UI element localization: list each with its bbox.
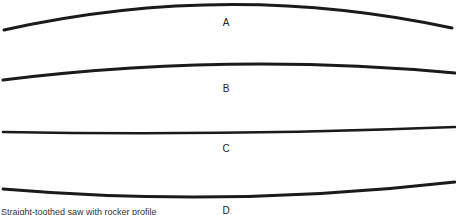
- profile-a-label: A: [223, 18, 230, 28]
- profile-d-label: D: [222, 206, 229, 215]
- profile-b-label: B: [223, 84, 230, 94]
- figure-caption: Straight-toothed saw with rocker profile: [1, 208, 157, 215]
- saw-profiles-diagram: [0, 0, 456, 215]
- profile-b-curve: [3, 64, 455, 80]
- profile-c-label: C: [222, 144, 229, 154]
- profile-d-curve: [3, 182, 455, 197]
- profile-c-curve: [3, 127, 455, 133]
